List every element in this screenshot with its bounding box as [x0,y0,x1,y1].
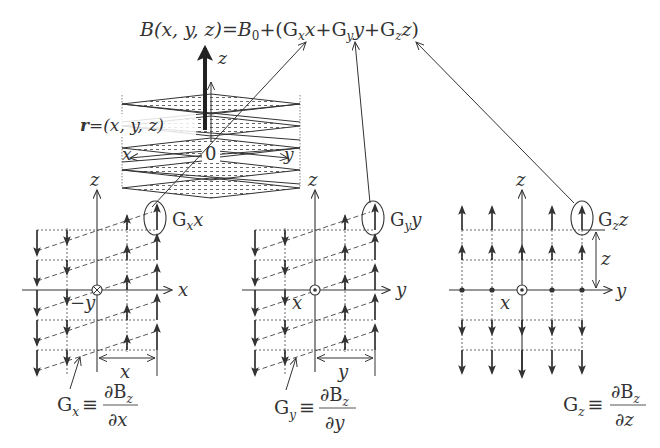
svg-text:B(x, y, z)=B0+(Gxx+Gyy+Gzz): B(x, y, z)=B0+(Gxx+Gyy+Gzz) [139,18,419,43]
svg-text:∂x: ∂x [108,409,127,430]
svg-text:z: z [600,248,611,269]
panel-gz: y z [449,169,646,430]
out-of-page-icon [517,285,527,295]
out-of-page-icon [310,285,320,295]
svg-text:y: y [283,144,294,164]
svg-text:x: x [122,144,132,164]
svg-text:∂Bz: ∂Bz [104,381,134,406]
definition-gz: Gz≡ ∂Bz ∂z [563,381,646,430]
offset-label-gz: x [500,292,510,313]
cube-3d: z x y 0 r=(x, y, z) [78,48,300,198]
svg-text:z: z [307,169,318,190]
svg-text:x: x [120,361,130,382]
offset-label-gx: −y [70,292,96,313]
svg-text:Gz≡: Gz≡ [563,393,603,419]
gradient-field-diagram: B(x, y, z)=B0+(Gxx+Gyy+Gzz) [0,0,660,448]
svg-text:y: y [615,280,627,301]
eq-gz: G [380,18,395,40]
svg-text:x: x [178,279,188,300]
svg-text:y: y [395,279,407,300]
panel-gx: x z [22,169,203,430]
svg-text:z: z [217,48,228,68]
svg-text:y: y [337,361,349,382]
origin-label: 0 [205,143,216,164]
svg-text:∂Bz: ∂Bz [320,384,350,409]
callout-gx-label: Gxx [172,209,203,233]
offset-label-gy: x [292,292,302,313]
field-equation: B(x, y, z)=B0+(Gxx+Gyy+Gzz) [139,18,419,43]
svg-text:Gx≡: Gx≡ [57,393,98,419]
svg-text:∂y: ∂y [325,412,345,433]
eq-gx: G [283,18,298,40]
callout-gy-label: Gyy [390,209,422,233]
callout-gz-label: Gzz [598,209,629,233]
svg-text:z: z [89,169,100,190]
svg-text:∂z: ∂z [615,409,634,430]
panel-gy: y z Gyy [242,169,422,433]
definition-gx: Gx≡ ∂Bz ∂x [57,381,138,430]
position-vector-label: r=(x, y, z) [80,115,164,135]
eq-gy: G [331,18,346,40]
eq-lhs: B(x, y, z) [139,18,222,40]
leader-gy [355,42,370,203]
svg-text:z: z [515,169,526,190]
definition-gy: Gy≡ ∂Bz ∂y [274,384,356,433]
svg-text:Gy≡: Gy≡ [274,396,315,422]
svg-text:∂Bz: ∂Bz [611,381,641,406]
leader-gz [416,42,574,203]
